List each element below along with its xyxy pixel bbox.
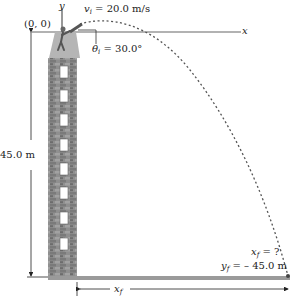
y-axis-label: y xyxy=(59,1,65,11)
final-x-label: xf = ? xyxy=(251,247,279,259)
trajectory-path xyxy=(80,21,288,276)
velocity-arrow xyxy=(70,24,82,32)
final-y-label: yf = – 45.0 m xyxy=(221,261,287,273)
origin-label: (0, 0) xyxy=(24,19,51,29)
initial-velocity-label: vi = 20.0 m/s xyxy=(84,4,150,16)
tower-roof xyxy=(49,32,80,58)
height-label: 45.0 m xyxy=(0,150,35,160)
launch-angle-label: θi = 30.0° xyxy=(92,44,142,56)
range-label: xf xyxy=(114,284,122,296)
ground xyxy=(48,276,290,280)
x-axis-label: x xyxy=(242,26,248,36)
